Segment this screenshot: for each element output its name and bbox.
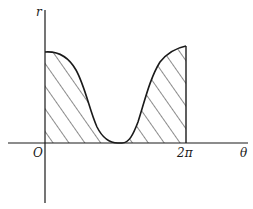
polar-area-diagram <box>0 0 253 209</box>
theta-axis-label: θ <box>240 147 247 159</box>
r-axis-label: r <box>36 6 42 18</box>
origin-label: O <box>33 147 43 159</box>
two-pi-tick-label: 2π <box>177 147 193 159</box>
